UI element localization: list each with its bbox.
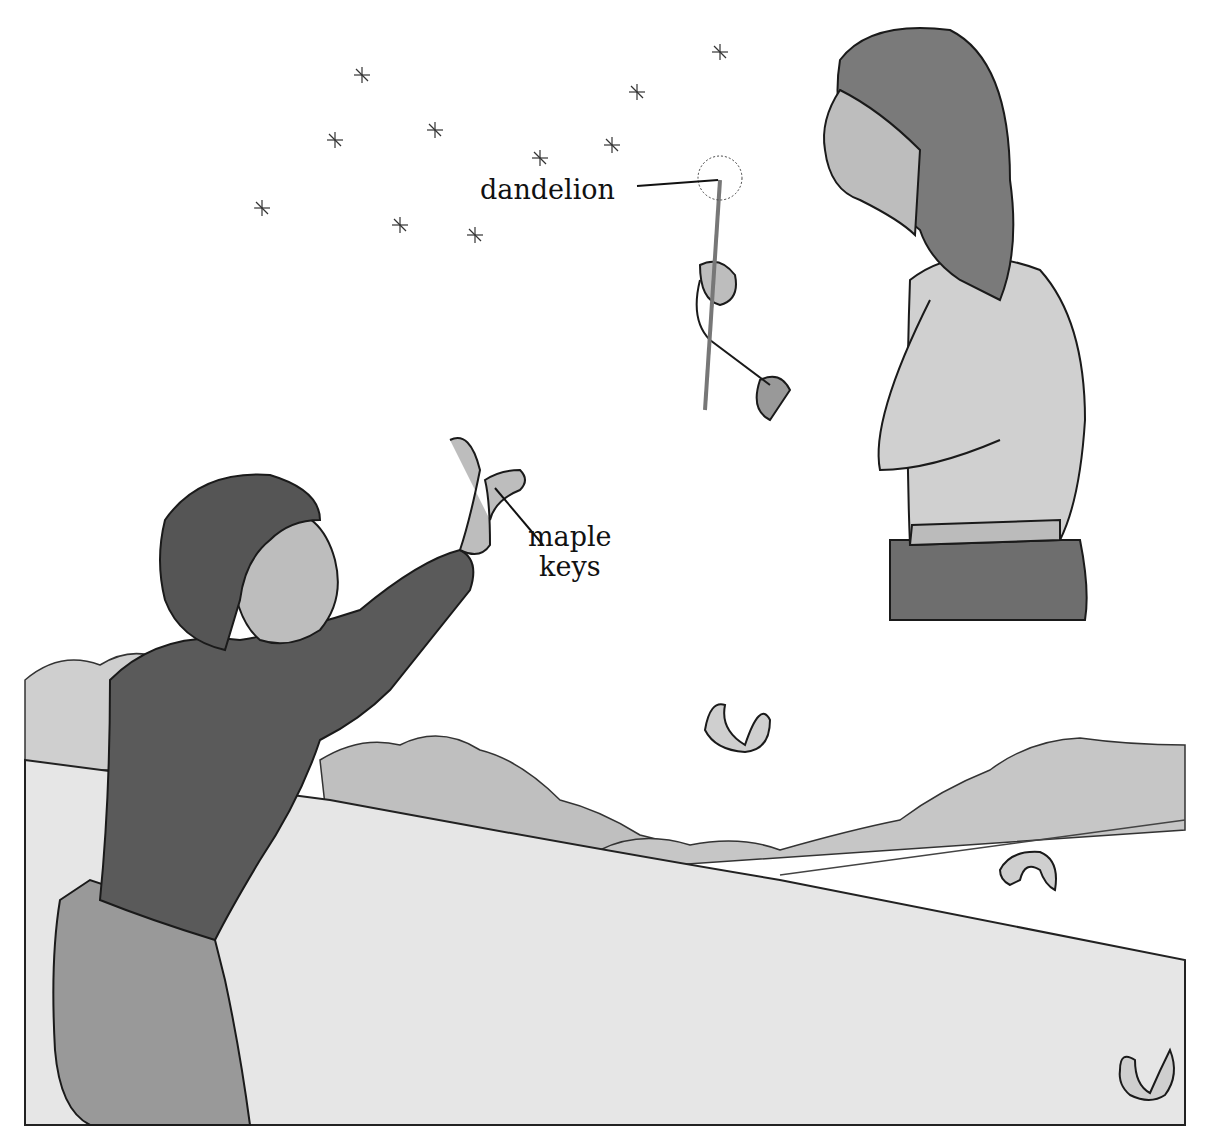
dandelion-seeds: [254, 44, 728, 243]
dandelion-label: dandelion: [480, 176, 615, 203]
maple-keys-label-line2: keys: [528, 552, 612, 582]
maple-keys-label-line1: maple: [528, 522, 612, 552]
girl: [697, 28, 1087, 620]
maple-keys-label: maple keys: [528, 522, 612, 582]
illustration: dandelion maple keys: [0, 0, 1208, 1146]
dandelion-pointer: [637, 180, 718, 186]
